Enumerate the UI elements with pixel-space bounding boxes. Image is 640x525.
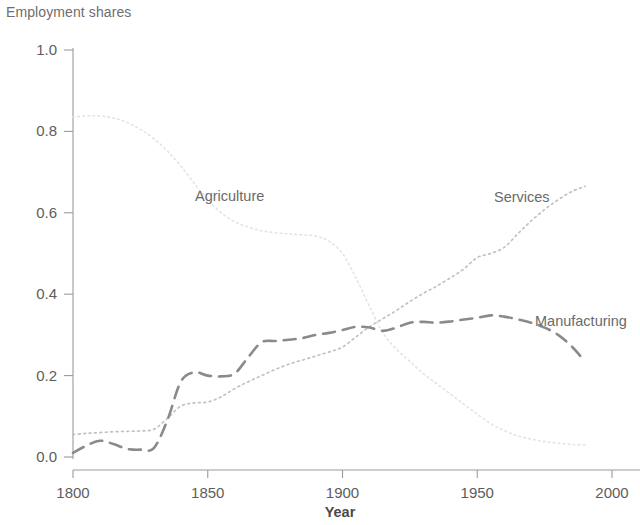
y-tick-label: 0.6 (36, 204, 57, 221)
data-series-group (73, 116, 585, 453)
series-line-agriculture (73, 116, 585, 445)
x-axis-ticks (73, 470, 612, 478)
y-tick-label: 0.4 (36, 285, 57, 302)
employment-shares-chart: Employment shares 0.00.20.40.60.81.0 180… (0, 0, 640, 525)
y-axis-tick-labels: 0.00.20.40.60.81.0 (36, 41, 57, 465)
x-tick-label: 1850 (191, 484, 224, 501)
y-tick-label: 0.2 (36, 367, 57, 384)
x-axis-title: Year (325, 504, 356, 520)
x-tick-label: 1800 (56, 484, 89, 501)
y-tick-label: 0.8 (36, 122, 57, 139)
series-labels-group: Agriculture Services Manufacturing (195, 188, 627, 329)
series-label-services: Services (494, 189, 550, 205)
series-label-agriculture: Agriculture (195, 188, 264, 204)
plot-area: 0.00.20.40.60.81.0 18001850190019502000 … (0, 0, 640, 525)
x-tick-label: 2000 (595, 484, 628, 501)
y-axis-ticks (64, 50, 73, 457)
x-tick-label: 1900 (326, 484, 359, 501)
series-line-services (73, 186, 585, 434)
series-label-manufacturing: Manufacturing (535, 313, 627, 329)
series-line-manufacturing (73, 315, 585, 453)
y-tick-label: 1.0 (36, 41, 57, 58)
x-axis: 18001850190019502000 Year (56, 470, 640, 520)
x-axis-tick-labels: 18001850190019502000 (56, 484, 628, 501)
x-tick-label: 1950 (461, 484, 494, 501)
y-axis: 0.00.20.40.60.81.0 (36, 41, 73, 465)
y-tick-label: 0.0 (36, 448, 57, 465)
